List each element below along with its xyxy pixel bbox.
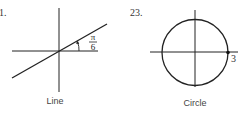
angle-denominator: 6 <box>91 42 96 52</box>
figure-number: 1. <box>0 7 7 18</box>
figure-line: 1. π 6 Line <box>0 7 107 106</box>
diagram-canvas: 1. π 6 Line 23. 3 Circle <box>0 0 252 120</box>
radius-label: 3 <box>231 53 236 64</box>
radius-point <box>226 51 230 55</box>
figure-number: 23. <box>130 7 143 18</box>
figure-circle: 23. 3 Circle <box>130 7 238 108</box>
figure-caption: Line <box>46 96 63 106</box>
figure-caption: Circle <box>183 98 206 108</box>
angle-numerator: π <box>91 32 96 42</box>
